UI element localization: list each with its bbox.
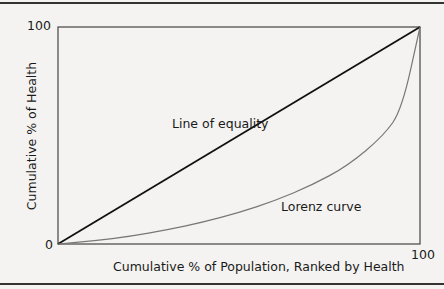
x-tick-100: 100 (411, 247, 435, 262)
equality-label: Line of equality (172, 116, 269, 131)
x-axis-label: Cumulative % of Population, Ranked by He… (113, 259, 405, 274)
y-tick-100: 100 (27, 18, 51, 33)
lorenz-label: Lorenz curve (281, 199, 361, 214)
line-of-equality (58, 27, 420, 244)
lorenz-plot (0, 0, 444, 289)
y-axis-label: Cumulative % of Health (24, 62, 39, 210)
y-tick-0: 0 (45, 237, 53, 252)
